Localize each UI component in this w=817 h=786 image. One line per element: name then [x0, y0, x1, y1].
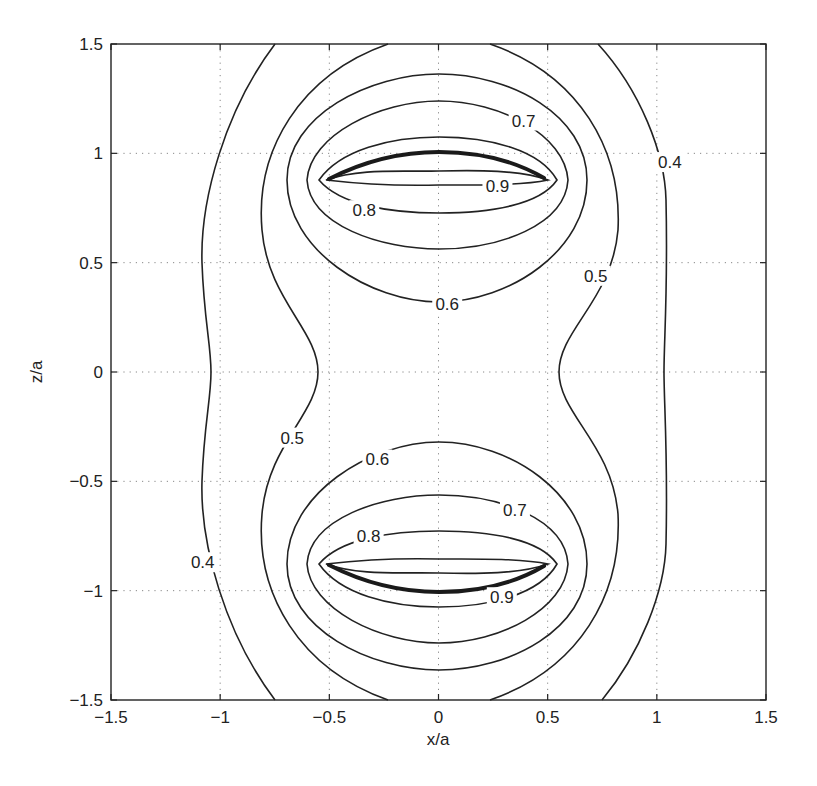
contour-label: 0.7 — [512, 112, 536, 131]
contour-label: 0.9 — [486, 177, 510, 196]
x-axis-label: x/a — [427, 730, 450, 749]
y-tick-label: 0 — [94, 363, 103, 382]
contour-label: 0.5 — [584, 267, 608, 286]
y-tick-label: −0.5 — [69, 472, 103, 491]
contour-chart: 0.70.40.90.80.50.60.50.60.70.80.40.9 −1.… — [0, 0, 817, 786]
y-tick-label: −1.5 — [69, 691, 103, 710]
x-tick-label: −1 — [210, 708, 229, 727]
y-axis-label: z/a — [27, 360, 46, 383]
x-tick-label: −0.5 — [313, 708, 347, 727]
x-tick-label: 0.5 — [536, 708, 560, 727]
y-tick-label: 0.5 — [79, 254, 103, 273]
contour-label: 0.9 — [490, 588, 514, 607]
y-tick-label: −1 — [84, 582, 103, 601]
x-tick-label: 1 — [652, 708, 661, 727]
contour-label: 0.7 — [503, 501, 527, 520]
x-tick-label: 0 — [434, 708, 443, 727]
contour-label: 0.5 — [280, 429, 304, 448]
contour-label: 0.6 — [366, 450, 390, 469]
contour-label: 0.6 — [435, 295, 459, 314]
contour-label: 0.8 — [357, 527, 381, 546]
contour-label: 0.8 — [352, 201, 376, 220]
x-tick-label: 1.5 — [754, 708, 778, 727]
x-tick-label: −1.5 — [94, 708, 128, 727]
contour-label: 0.4 — [658, 153, 682, 172]
contour-label: 0.4 — [191, 553, 215, 572]
y-tick-label: 1 — [94, 144, 103, 163]
y-tick-label: 1.5 — [79, 35, 103, 54]
